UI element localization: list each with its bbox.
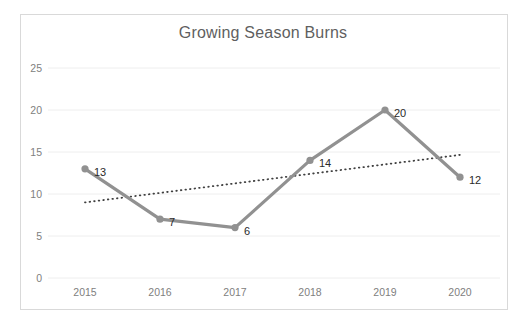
data-point-label: 14 (319, 157, 331, 169)
trendline (85, 155, 463, 203)
data-markers-group (81, 106, 463, 231)
y-axis-tick-label: 25 (18, 62, 42, 74)
x-axis-tick-label: 2016 (130, 286, 190, 298)
y-axis-tick-label: 5 (18, 230, 42, 242)
data-point-marker[interactable] (456, 174, 463, 181)
chart-container: Growing Season Burns 0510152025 20152016… (0, 0, 526, 332)
data-point-marker[interactable] (156, 216, 163, 223)
data-point-marker[interactable] (231, 224, 238, 231)
chart-plot-area (0, 0, 526, 332)
x-axis-tick-label: 2018 (280, 286, 340, 298)
trendline-group (85, 155, 463, 203)
gridlines-group (48, 68, 500, 278)
data-point-label: 6 (244, 225, 250, 237)
data-line (85, 110, 460, 228)
x-axis-tick-label: 2015 (55, 286, 115, 298)
y-axis-labels: 0510152025 (18, 0, 42, 332)
data-point-label: 7 (169, 216, 175, 228)
data-point-marker[interactable] (306, 157, 313, 164)
data-series-group (85, 110, 460, 228)
x-axis-tick-label: 2020 (430, 286, 490, 298)
data-point-label: 20 (394, 107, 406, 119)
y-axis-tick-label: 15 (18, 146, 42, 158)
data-point-marker[interactable] (381, 106, 388, 113)
x-axis-tick-label: 2019 (355, 286, 415, 298)
data-point-label: 12 (469, 174, 481, 186)
data-point-label: 13 (94, 166, 106, 178)
y-axis-tick-label: 0 (18, 272, 42, 284)
data-point-marker[interactable] (81, 165, 88, 172)
y-axis-tick-label: 20 (18, 104, 42, 116)
x-axis-tick-label: 2017 (205, 286, 265, 298)
y-axis-tick-label: 10 (18, 188, 42, 200)
